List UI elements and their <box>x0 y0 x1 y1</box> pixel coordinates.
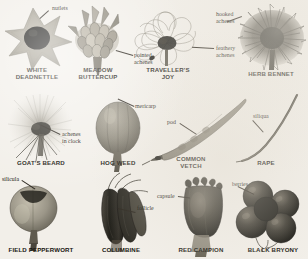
caption-columbine: COLUMBINE <box>88 246 154 253</box>
art-rape <box>236 94 298 162</box>
art-black-bryony <box>236 181 299 252</box>
caption-goats-beard: GOAT'S BEARD <box>3 159 79 166</box>
annotation-hooked-achenes: hooked achenes <box>216 11 235 24</box>
annotation-pod: pod <box>167 119 176 126</box>
annotation-nutlets: nutlets <box>52 5 68 12</box>
caption-black-bryony: BLACK BRYONY <box>238 246 308 253</box>
annotation-feathery-achenes: feathery achenes <box>216 45 235 58</box>
caption-red-campion: RED CAMPION <box>166 246 236 253</box>
annotation-follicle: follicle <box>137 205 154 212</box>
annotation-capsule: capsule <box>157 193 175 200</box>
art-meadow-buttercup <box>68 6 119 75</box>
art-white-deadnettle <box>5 8 72 70</box>
caption-herb-bennet: HERB BENNET <box>234 70 308 77</box>
annotation-siliqua: siliqua <box>253 113 269 120</box>
caption-hog-weed: HOG WEED <box>86 159 150 166</box>
caption-field-pepperwort: FIELD PEPPERWORT <box>0 246 82 253</box>
caption-rape: RAPE <box>240 159 292 166</box>
annotation-mericarp: mericarp <box>135 103 156 110</box>
botanical-fruit-plate: nutlets pointed achenes feathery achenes… <box>0 0 308 259</box>
art-field-pepperwort <box>10 186 57 251</box>
caption-common-vetch: COMMON VETCH <box>157 155 225 169</box>
caption-travellers-joy: TRAVELLER'S JOY <box>132 66 204 80</box>
annotation-pointed-achenes: pointed achenes <box>134 52 153 65</box>
caption-meadow-buttercup: MEADOW BUTTERCUP <box>61 66 135 80</box>
annotation-silicula: silicula <box>2 176 19 183</box>
annotation-achenes-in-clock: achenes in clock <box>62 131 81 144</box>
art-goats-beard <box>8 92 72 161</box>
art-herb-bennet <box>238 4 306 70</box>
art-columbine <box>102 173 148 252</box>
